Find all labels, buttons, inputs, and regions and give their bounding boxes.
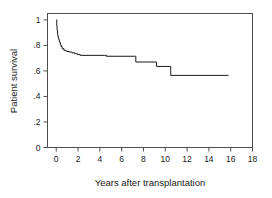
survival-step-line <box>56 20 228 76</box>
x-tick-label: 2 <box>76 154 81 164</box>
y-axis-title: Patient survival <box>8 49 19 113</box>
x-tick-label: 18 <box>248 154 258 164</box>
y-tick-label: 0 <box>36 143 41 153</box>
y-axis-ticks: 0.2.4.6.81 <box>33 15 47 153</box>
plot-frame <box>48 14 253 148</box>
figure-container: 0.2.4.6.81 024681012141618 Years after t… <box>0 0 272 198</box>
x-tick-label: 6 <box>119 154 124 164</box>
x-tick-label: 14 <box>204 154 214 164</box>
x-tick-label: 4 <box>97 154 102 164</box>
y-tick-label: .8 <box>33 40 40 50</box>
x-tick-label: 16 <box>226 154 236 164</box>
y-tick-label: .6 <box>33 66 40 76</box>
x-axis-title: Years after transplantation <box>95 177 206 188</box>
x-tick-label: 8 <box>141 154 146 164</box>
y-tick-label: .4 <box>33 91 40 101</box>
y-tick-label: .2 <box>33 117 40 127</box>
x-tick-label: 10 <box>161 154 171 164</box>
x-axis-ticks: 024681012141618 <box>54 148 258 164</box>
x-tick-label: 12 <box>182 154 192 164</box>
y-tick-label: 1 <box>36 15 41 25</box>
survival-curve-chart: 0.2.4.6.81 024681012141618 Years after t… <box>0 0 272 198</box>
x-tick-label: 0 <box>54 154 59 164</box>
